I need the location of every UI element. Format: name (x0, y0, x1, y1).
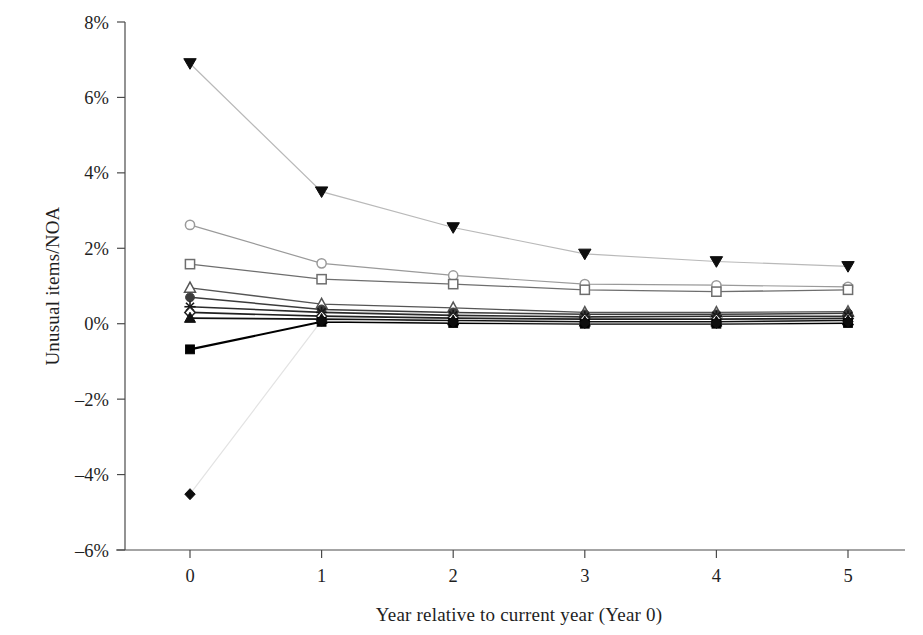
x-tick-label: 0 (185, 566, 194, 586)
series-line (190, 64, 848, 267)
x-tick-label: 1 (317, 566, 326, 586)
chart-plot-area: 8%6%4%2%0%–2%–4%–6% 012345 (0, 0, 923, 635)
series-1 (190, 225, 848, 287)
series-line (190, 264, 848, 292)
data-point-circle-open (317, 259, 326, 268)
data-point-triangle-down-filled (842, 262, 854, 273)
series-line (190, 321, 848, 495)
x-tick-group: 012345 (185, 550, 852, 586)
x-tick-label: 4 (712, 566, 721, 586)
series-line (190, 225, 848, 287)
x-tick-label: 5 (843, 566, 852, 586)
chart-figure: Unusual items/NOA Year relative to curre… (0, 0, 923, 635)
y-tick-label: 4% (84, 163, 109, 183)
data-point-square-filled (186, 345, 195, 354)
y-tick-group: 8%6%4%2%0%–2%–4%–6% (74, 13, 125, 561)
data-point-square-open (843, 285, 852, 294)
y-tick-label: 0% (84, 314, 109, 334)
y-tick-label: 6% (84, 88, 109, 108)
y-tick-label: –4% (74, 465, 109, 485)
y-tick-label: 2% (84, 239, 109, 259)
y-tick-label: –2% (74, 390, 109, 410)
data-point-triangle-down-filled (315, 187, 327, 198)
data-point-circle-open (449, 271, 458, 280)
series-line (190, 322, 848, 350)
data-point-square-open (317, 275, 326, 284)
y-tick-label: 8% (84, 13, 109, 33)
data-point-square-open (449, 280, 458, 289)
x-tick-label: 3 (580, 566, 589, 586)
series-group (184, 59, 854, 500)
x-tick-label: 2 (449, 566, 458, 586)
series-9 (190, 321, 848, 495)
y-tick-label: –6% (74, 541, 109, 561)
x-axis-title: Year relative to current year (Year 0) (376, 604, 663, 626)
data-point-square-open (580, 285, 589, 294)
data-point-square-open (185, 260, 194, 269)
y-axis-title: Unusual items/NOA (42, 206, 64, 365)
series-2 (190, 264, 848, 292)
series-markers-9 (185, 315, 853, 499)
series-8 (190, 322, 848, 350)
data-point-triangle-up-open (185, 282, 196, 292)
series-markers-1 (185, 220, 852, 291)
series-0 (190, 64, 848, 267)
data-point-circle-open (185, 220, 194, 229)
data-point-circle-filled (186, 293, 195, 302)
data-point-square-open (712, 287, 721, 296)
